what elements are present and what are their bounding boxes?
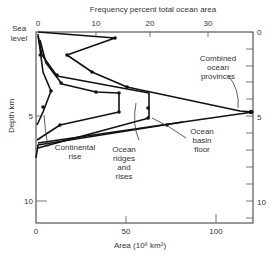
ridges-label-1: Ocean bbox=[112, 145, 136, 154]
ridges-label-2: ridges bbox=[113, 154, 135, 163]
rise-label-1: Continental bbox=[55, 143, 96, 152]
ridges-label-4: rises bbox=[116, 172, 133, 181]
ridges-label-3: and bbox=[117, 163, 130, 172]
combined-label-2: ocean bbox=[207, 63, 229, 72]
data-markers bbox=[39, 36, 254, 127]
basin-label-3: floor bbox=[194, 145, 210, 154]
depth-area-chart: Frequency percent total ocean area 0 10 … bbox=[0, 0, 276, 256]
bottom-axis bbox=[126, 214, 216, 223]
left-tick-5: 5 bbox=[29, 112, 34, 121]
bottom-tick-100: 100 bbox=[209, 227, 223, 236]
right-tick-5: 5 bbox=[257, 113, 262, 122]
right-axis bbox=[246, 49, 253, 218]
top-axis bbox=[96, 32, 208, 37]
combined-label-3: provinces bbox=[201, 72, 235, 81]
bottom-tick-50: 50 bbox=[122, 227, 131, 236]
sea-level-label-2: level bbox=[11, 34, 28, 43]
top-tick-10: 10 bbox=[92, 19, 101, 28]
rise-label-2: rise bbox=[69, 152, 82, 161]
left-tick-10: 10 bbox=[24, 197, 33, 206]
basin-label-2: basin bbox=[192, 136, 211, 145]
right-tick-0: 0 bbox=[257, 28, 262, 37]
bottom-axis-title: Area (10⁶ km²) bbox=[114, 241, 167, 250]
bottom-tick-0: 0 bbox=[34, 227, 39, 236]
right-tick-10: 10 bbox=[257, 198, 266, 207]
top-tick-20: 20 bbox=[146, 19, 155, 28]
top-axis-title: Frequency percent total ocean area bbox=[90, 5, 217, 14]
continental-rise-line bbox=[37, 34, 51, 125]
top-tick-30: 30 bbox=[204, 19, 213, 28]
combined-ocean-provinces-line bbox=[38, 32, 253, 143]
depth-axis-title: Depth km bbox=[7, 99, 16, 134]
sea-level-label: Sea bbox=[12, 24, 27, 33]
combined-label-1: Combined bbox=[200, 54, 236, 63]
top-tick-0: 0 bbox=[36, 19, 41, 28]
ocean-ridges-line bbox=[37, 40, 119, 140]
basin-label-1: Ocean bbox=[190, 127, 214, 136]
